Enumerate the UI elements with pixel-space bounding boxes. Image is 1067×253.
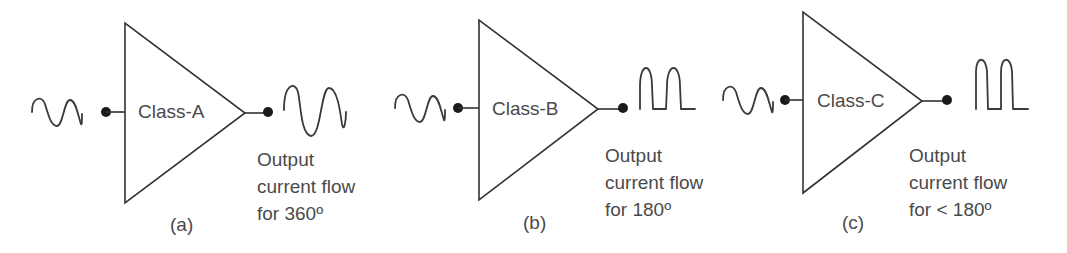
caption-line: for < 180º [909,196,1007,223]
output-full-sine-wave-icon [284,86,346,136]
amplifier-label-class-b: Class-B [492,98,559,120]
amplifier-label-class-a: Class-A [138,101,205,123]
caption-line: Output [605,142,703,169]
caption-line: current flow [605,169,703,196]
caption-line: current flow [257,173,355,200]
subfigure-label-b: (b) [523,212,546,234]
output-half-wave-pulses-icon [640,68,695,109]
caption-line: current flow [909,169,1007,196]
output-terminal-dot [263,107,273,117]
input-sine-wave-icon [32,99,82,126]
amplifier-label-class-c: Class-C [817,90,885,112]
output-narrow-pulses-icon [976,60,1028,109]
subfigure-label-c: (c) [842,212,864,234]
input-sine-wave-icon [723,87,773,114]
caption-line: for 180º [605,196,703,223]
caption-line: Output [257,146,355,173]
caption-line: Output [909,142,1007,169]
caption-line: for 360º [257,200,355,227]
subfigure-label-a: (a) [170,214,193,236]
caption-b: Output current flow for 180º [605,142,703,223]
output-terminal-dot [618,103,628,113]
caption-c: Output current flow for < 180º [909,142,1007,223]
caption-a: Output current flow for 360º [257,146,355,227]
output-terminal-dot [942,95,952,105]
input-sine-wave-icon [395,95,445,122]
